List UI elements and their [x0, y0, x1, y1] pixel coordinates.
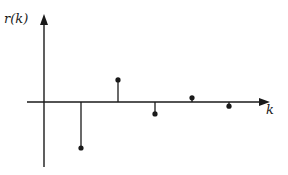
y-axis-arrow-icon: [40, 14, 48, 25]
stem-marker: [152, 111, 157, 116]
stem-marker: [115, 77, 120, 82]
x-axis-label: k: [266, 103, 274, 116]
stem-plot: r(k) k: [0, 0, 288, 175]
stem-marker: [78, 145, 83, 150]
plot-canvas: [0, 0, 288, 175]
y-axis-label: r(k): [4, 12, 28, 25]
stem-marker: [226, 104, 231, 109]
stem-marker: [189, 95, 194, 100]
